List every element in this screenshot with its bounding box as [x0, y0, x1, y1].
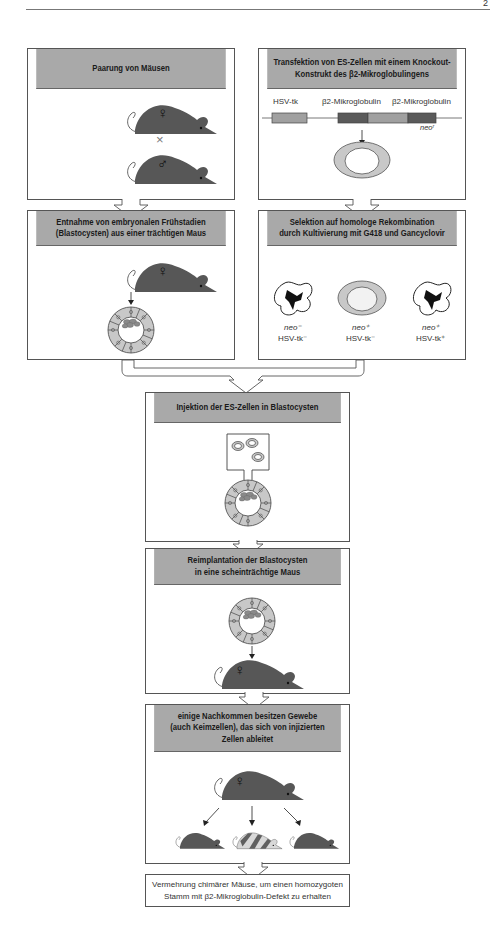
final-line2: Stamm mit β2-Mikroglobulin-Defekt zu erh… — [164, 891, 331, 902]
final-line1: Vermehrung chimärer Mäuse, um einen homo… — [152, 879, 343, 890]
down-arrow — [0, 0, 490, 930]
step-final: Vermehrung chimärer Mäuse, um einen homo… — [145, 874, 350, 907]
